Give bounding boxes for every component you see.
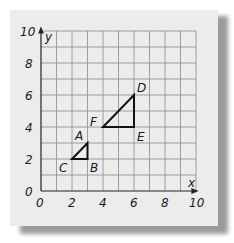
y-tick-6: 6 — [25, 89, 33, 103]
x-tick-0: 0 — [36, 196, 44, 210]
x-tick-2: 2 — [68, 196, 76, 210]
x-tick-8: 8 — [161, 196, 169, 210]
y-tick-4: 4 — [25, 121, 33, 135]
point-label-b: B — [90, 161, 98, 175]
point-label-c: C — [59, 161, 68, 175]
point-label-e: E — [137, 130, 145, 144]
x-tick-4: 4 — [99, 196, 107, 210]
triangle-abc — [72, 143, 88, 159]
y-tick-2: 2 — [25, 153, 33, 167]
x-tick-10: 10 — [189, 196, 205, 210]
y-tick-0: 0 — [25, 185, 33, 199]
coordinate-plane: y x 10 8 6 4 2 0 0 2 4 6 8 10 A B C D E … — [0, 0, 234, 243]
y-axis-arrow-icon — [39, 28, 43, 33]
x-axis-label: x — [187, 176, 196, 190]
y-axis-label: y — [44, 30, 53, 44]
y-tick-10: 10 — [20, 25, 36, 39]
point-label-d: D — [137, 81, 146, 95]
y-tick-8: 8 — [25, 57, 33, 71]
point-label-a: A — [74, 129, 83, 143]
point-label-f: F — [90, 115, 98, 129]
x-tick-6: 6 — [130, 196, 138, 210]
